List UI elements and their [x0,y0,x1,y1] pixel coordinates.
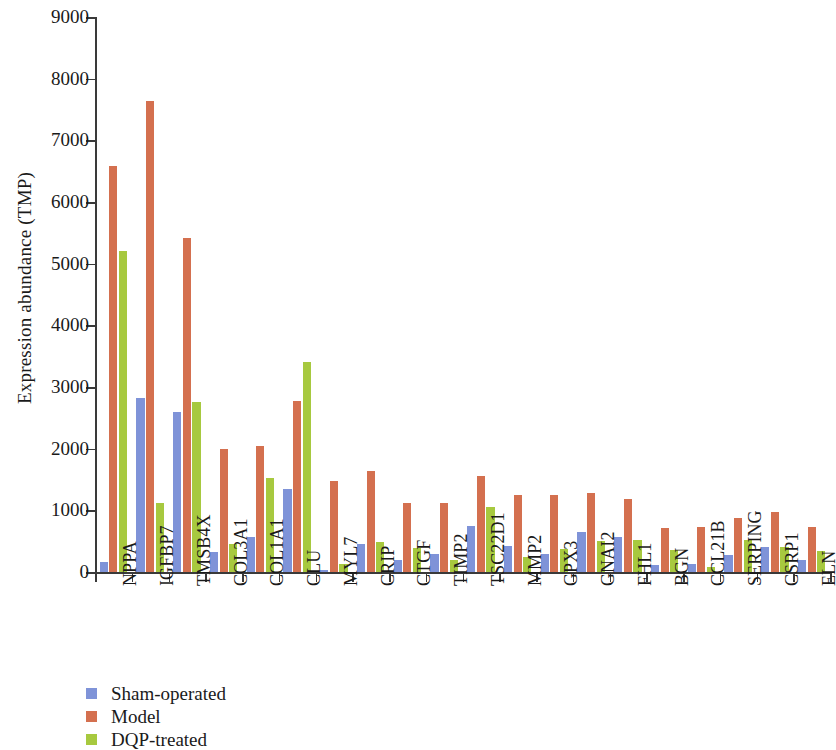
bar-group [430,17,457,572]
bar [734,518,742,572]
bar-group [283,17,310,572]
bar [587,493,595,572]
legend-label: DQP-treated [111,730,207,749]
bar [100,562,108,572]
legend-label: Sham-operated [111,684,226,703]
bar [661,528,669,572]
x-axis-label: FHL1 [635,543,656,586]
bar [440,503,448,572]
x-axis-label: GPX3 [561,541,582,586]
plot-area: 0100020003000400050006000700080009000 [95,17,830,572]
x-axis-label: CSRP1 [782,532,803,586]
bar [330,481,338,572]
y-tick-label: 4000 [51,314,89,336]
bar [109,166,117,572]
legend-item[interactable]: Sham-operated [86,682,226,705]
x-axis-label: CRIP [378,546,399,586]
x-axis-label: BGN [672,548,693,586]
bar-group [761,17,788,572]
legend-item[interactable]: DQP-treated [86,728,226,750]
x-axis-label: TIMP2 [451,533,472,586]
bar-group [688,17,715,572]
x-axis-label: TMSB4X [194,514,215,586]
bar-group [173,17,200,572]
bar [183,238,191,572]
bar-group [651,17,678,572]
y-tick-label: 0 [80,561,90,583]
x-axis-label: IGFBP7 [157,525,178,586]
bar [303,362,311,572]
bar [293,401,301,572]
y-tick-label: 2000 [51,438,89,460]
legend-label: Model [111,707,161,726]
legend-swatch-icon [86,711,97,722]
x-axis-label: COL3A1 [231,518,252,586]
x-axis-label: MMP2 [525,535,546,586]
x-axis-label: MYL7 [341,537,362,586]
bar [119,251,127,572]
bar-group [136,17,163,572]
x-axis-label: CTGF [414,540,435,586]
legend: Sham-operatedModelDQP-treated [86,682,226,750]
x-tick-mark [95,573,97,582]
bar-chart-figure: Expression abundance (TMP) 0100020003000… [0,0,836,750]
bar [624,499,632,572]
bar-group [210,17,237,572]
bar-group [247,17,274,572]
x-axis-label: GNAI2 [598,532,619,587]
bar [403,503,411,572]
x-axis-label: TSC22D1 [488,512,509,586]
bar [514,495,522,572]
bar-group [100,17,127,572]
bar-group [394,17,421,572]
y-axis-title: Expression abundance (TMP) [14,0,48,588]
x-axis-label: NPPA [120,541,141,586]
x-axis-label: CLU [304,550,325,586]
bar [367,471,375,572]
bar [808,527,816,572]
y-tick-label: 1000 [51,499,89,521]
y-tick-label: 7000 [51,129,89,151]
y-tick-label: 9000 [51,6,89,28]
y-tick-label: 5000 [51,253,89,275]
legend-item[interactable]: Model [86,705,226,728]
bar-group [541,17,568,572]
bar [771,512,779,572]
legend-swatch-icon [86,734,97,745]
bar [146,101,154,572]
bar [477,476,485,572]
bar-group [504,17,531,572]
bar-group [320,17,347,572]
x-axis-label: COL1A1 [267,518,288,586]
bar-group [357,17,384,572]
x-axis-label: CCL21B [708,520,729,586]
bar-group [724,17,751,572]
bar [220,449,228,572]
y-tick-label: 8000 [51,68,89,90]
bar-group [577,17,604,572]
y-axis-line [95,17,97,572]
bar [256,446,264,572]
bar [550,495,558,572]
bar [697,527,705,572]
y-tick-label: 3000 [51,376,89,398]
bar-group [798,17,825,572]
legend-swatch-icon [86,688,97,699]
x-axis-label: SERPING [745,510,766,586]
x-axis-label: ELN [819,551,836,586]
bar-group [614,17,641,572]
bar-group [467,17,494,572]
y-tick-label: 6000 [51,191,89,213]
